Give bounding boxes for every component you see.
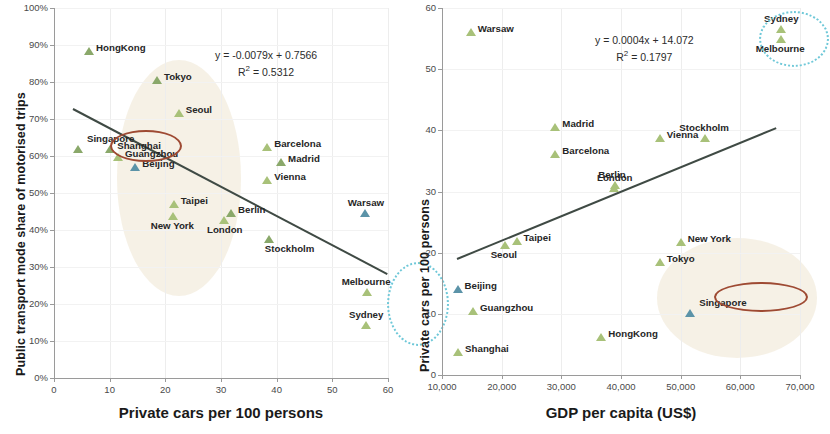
left-y-axis-line: [54, 8, 55, 378]
data-point-marker: [84, 47, 94, 55]
data-point-label: Barcelona: [274, 138, 321, 149]
data-point-label: London: [597, 172, 633, 183]
data-point-marker: [685, 309, 695, 317]
right-gridline-horizontal: [442, 8, 800, 9]
data-point-label: Seoul: [186, 104, 212, 115]
right-y-tick-label: 60: [396, 2, 436, 13]
left-gridline-horizontal: [54, 8, 388, 9]
right-x-tick-label: 70,000: [770, 381, 830, 392]
left-x-tickmark: [110, 378, 111, 382]
right-y-tick-label: 50: [396, 63, 436, 74]
data-point-marker: [453, 348, 463, 356]
left-r-squared-text: R2 = 0.5312: [215, 62, 317, 79]
right-x-tickmark: [621, 375, 622, 379]
data-point-marker: [360, 209, 370, 217]
right-x-tick-label: 20,000: [472, 381, 532, 392]
data-point-marker: [466, 28, 476, 36]
right-x-tick-label: 60,000: [710, 381, 770, 392]
data-point-label: Vienna: [274, 171, 306, 182]
data-point-marker: [512, 237, 522, 245]
data-point-marker: [130, 163, 140, 171]
left-gridline-horizontal: [54, 82, 388, 83]
left-x-axis-title: Private cars per 100 persons: [54, 404, 388, 421]
right-y-tickmark: [438, 8, 442, 9]
left-equation-text: y = -0.0079x + 0.7566: [215, 48, 317, 62]
left-y-tick-label: 40%: [8, 224, 48, 235]
left-y-tickmark: [50, 267, 54, 268]
right-y-tick-label: 40: [396, 124, 436, 135]
data-point-label: HongKong: [608, 328, 658, 339]
left-y-tickmark: [50, 8, 54, 9]
right-y-tickmark: [438, 69, 442, 70]
data-point-marker: [169, 200, 179, 208]
left-y-tick-label: 60%: [8, 150, 48, 161]
left-y-tickmark: [50, 45, 54, 46]
data-point-marker: [262, 176, 272, 184]
left-gridline-horizontal: [54, 267, 388, 268]
left-gridline-horizontal: [54, 341, 388, 342]
left-x-tickmark: [388, 378, 389, 382]
data-point-label: New York: [151, 220, 194, 231]
left-y-tick-label: 70%: [8, 113, 48, 124]
data-point-marker: [700, 134, 710, 142]
left-y-tick-label: 100%: [8, 2, 48, 13]
data-point-label: Taipei: [524, 232, 551, 243]
left-x-tick-label: 20: [135, 384, 195, 395]
right-australian-cities-highlight-ellipse: [759, 11, 829, 67]
data-point-marker: [73, 145, 83, 153]
data-point-label: HongKong: [96, 42, 146, 53]
right-x-tick-label: 40,000: [591, 381, 651, 392]
data-point-marker: [174, 109, 184, 117]
left-singapore-highlight-ellipse: [110, 130, 182, 162]
data-point-marker: [453, 285, 463, 293]
left-gridline-horizontal: [54, 156, 388, 157]
right-gridline-horizontal: [442, 69, 800, 70]
left-gridline-horizontal: [54, 304, 388, 305]
left-y-tickmark: [50, 304, 54, 305]
right-x-tick-label: 10,000: [412, 381, 472, 392]
right-y-tickmark: [438, 192, 442, 193]
data-point-marker: [361, 321, 371, 329]
data-point-label: Stockholm: [265, 243, 315, 254]
right-x-tick-label: 30,000: [531, 381, 591, 392]
left-y-tick-label: 90%: [8, 39, 48, 50]
left-x-tickmark: [165, 378, 166, 382]
left-x-tick-label: 60: [358, 384, 418, 395]
left-y-tick-label: 50%: [8, 187, 48, 198]
right-trendline-equation: y = 0.0004x + 14.072 R2 = 0.1797: [595, 33, 694, 64]
data-point-label: Madrid: [288, 153, 320, 164]
left-y-tickmark: [50, 230, 54, 231]
data-point-marker: [262, 143, 272, 151]
left-x-tick-label: 0: [24, 384, 84, 395]
right-y-tick-label: 10: [396, 308, 436, 319]
left-gridline-horizontal: [54, 193, 388, 194]
right-y-tick-label: 30: [396, 186, 436, 197]
left-cluster-highlight-blob: [117, 60, 241, 296]
data-point-label: Tokyo: [667, 253, 695, 264]
data-point-marker: [655, 258, 665, 266]
left-x-tick-label: 10: [80, 384, 140, 395]
left-x-tick-label: 50: [302, 384, 362, 395]
data-point-marker: [609, 184, 619, 192]
right-y-tick-label: 20: [396, 247, 436, 258]
chart-panel-left: Public transport mode share of motorised…: [0, 0, 410, 434]
right-y-tick-label: 0: [396, 369, 436, 380]
right-r-squared-text: R2 = 0.1797: [595, 47, 694, 64]
left-y-tick-label: 10%: [8, 335, 48, 346]
right-x-tickmark: [561, 375, 562, 379]
data-point-label: Madrid: [562, 118, 594, 129]
data-point-marker: [264, 235, 274, 243]
right-gridline-horizontal: [442, 314, 800, 315]
right-x-tickmark: [800, 375, 801, 379]
left-y-tick-label: 0%: [8, 372, 48, 383]
data-point-label: New York: [688, 233, 731, 244]
right-x-tickmark: [740, 375, 741, 379]
data-point-marker: [152, 76, 162, 84]
left-y-tickmark: [50, 156, 54, 157]
left-y-tick-label: 20%: [8, 298, 48, 309]
left-y-tickmark: [50, 119, 54, 120]
data-point-marker: [655, 134, 665, 142]
data-point-marker: [362, 288, 372, 296]
data-point-marker: [550, 150, 560, 158]
